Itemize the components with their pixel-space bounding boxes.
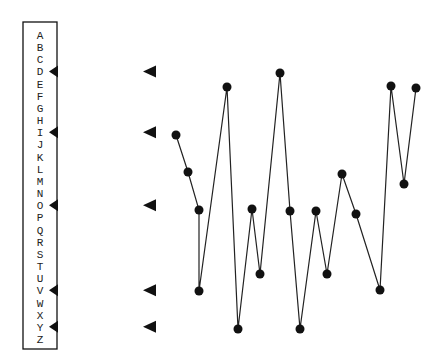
box-marker-icon (49, 199, 58, 211)
alphabet-letter: P (37, 212, 44, 224)
data-point: O (248, 205, 257, 214)
data-point: O (195, 206, 204, 215)
alphabet-letter: E (37, 79, 44, 91)
data-point: O (286, 207, 295, 216)
alphabet-letter: X (37, 310, 44, 322)
alphabet-letter: U (37, 273, 44, 285)
data-point: I (172, 131, 181, 140)
data-point: L (184, 168, 193, 177)
y-axis-markers (143, 65, 156, 332)
alphabet-letter: S (37, 249, 44, 261)
data-point: Y (296, 325, 305, 334)
axis-marker-icon (143, 65, 156, 77)
data-point: U (256, 270, 265, 279)
alphabet-letter: L (37, 164, 44, 176)
data-point: V (376, 286, 385, 295)
axis-marker-icon (143, 321, 156, 333)
box-marker-icon (49, 65, 58, 77)
letter-line-chart: ABCDEFGHIJKLMNOPQRSTUVWXYZ ILOVEYOUDOYOU… (0, 0, 446, 364)
alphabet-letter: D (37, 66, 44, 78)
data-point: E (223, 83, 232, 92)
alphabet-letter: M (37, 176, 44, 188)
alphabet-letter: Z (37, 334, 44, 346)
data-point: E (412, 84, 421, 93)
data-point: L (338, 170, 347, 179)
box-marker-icon (49, 321, 58, 333)
alphabet-letter: K (37, 152, 44, 164)
alphabet-letter: N (37, 188, 44, 200)
alphabet-letter: O (37, 200, 44, 212)
alphabet-letter: W (37, 298, 44, 310)
axis-marker-icon (143, 199, 156, 211)
data-point: U (323, 270, 332, 279)
alphabet-letter: Y (37, 322, 44, 334)
data-point: O (312, 207, 321, 216)
data-point: O (352, 210, 361, 219)
data-point: D (276, 69, 285, 78)
alphabet-letter: F (37, 91, 44, 103)
alphabet-letter: V (37, 285, 44, 297)
alphabet-axis-labels: ABCDEFGHIJKLMNOPQRSTUVWXYZ (37, 30, 44, 346)
alphabet-letter: R (37, 237, 44, 249)
alphabet-letter: H (37, 115, 44, 127)
data-point: E (387, 82, 396, 91)
alphabet-letter: T (37, 261, 44, 273)
box-marker-icon (49, 126, 58, 138)
data-point: M (400, 180, 409, 189)
alphabet-letter: G (37, 103, 44, 115)
series-points: ILOVEYOUDOYOULOVEME (172, 69, 421, 334)
alphabet-letter: A (37, 30, 44, 42)
alphabet-letter: Q (37, 225, 44, 237)
alphabet-letter: B (37, 42, 44, 54)
alphabet-letter: I (37, 127, 44, 139)
data-point: V (195, 287, 204, 296)
box-marker-icon (49, 284, 58, 296)
axis-marker-icon (143, 284, 156, 296)
axis-marker-icon (143, 126, 156, 138)
alphabet-letter: J (37, 139, 44, 151)
alphabet-letter: C (37, 54, 44, 66)
data-point: Y (234, 325, 243, 334)
